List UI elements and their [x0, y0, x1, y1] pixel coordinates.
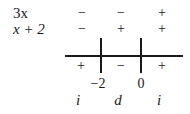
critical-point-0: 0 [138, 77, 145, 91]
number-line [65, 55, 183, 57]
sign-xplus2-interval-2: + [117, 22, 125, 36]
sign-3x-interval-2: − [117, 6, 125, 20]
product-sign-interval-2: − [117, 59, 125, 73]
row-label-x-plus-2: x + 2 [13, 22, 45, 37]
sign-xplus2-interval-3: + [158, 22, 166, 36]
sign-3x-interval-1: − [78, 6, 86, 20]
divider-at-minus-2 [100, 38, 102, 73]
monotonicity-interval-1: i [76, 93, 80, 108]
monotonicity-interval-2: d [114, 93, 122, 108]
critical-point-minus-2: −2 [91, 77, 106, 91]
divider-at-0 [140, 38, 142, 73]
row-label-text: 3x [13, 5, 28, 21]
monotonicity-interval-3: i [157, 93, 161, 108]
row-label-text: x + 2 [13, 21, 45, 37]
row-label-3x: 3x [13, 6, 28, 21]
product-sign-interval-1: + [77, 59, 85, 73]
sign-3x-interval-3: + [158, 6, 166, 20]
sign-xplus2-interval-1: − [78, 22, 86, 36]
product-sign-interval-3: + [158, 59, 166, 73]
